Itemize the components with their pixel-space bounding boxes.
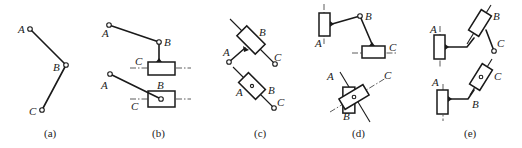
link-ab xyxy=(30,29,66,65)
link-a-b xyxy=(332,16,360,24)
label-a-upper: A xyxy=(101,27,109,39)
caption-a: (a) xyxy=(44,127,57,140)
label-b-lower: B xyxy=(268,84,275,96)
label-b-lower: B xyxy=(343,110,350,122)
slider-c xyxy=(362,46,385,58)
label-a-upper: A xyxy=(429,23,437,35)
weld-icon xyxy=(330,21,334,27)
label-c-upper: C xyxy=(274,51,282,63)
pin-icon xyxy=(352,95,356,99)
caption-c: (c) xyxy=(254,127,267,140)
label-b-upper: B xyxy=(365,10,372,22)
label-a-lower: A xyxy=(431,76,439,88)
label-a: A xyxy=(17,23,25,35)
caption-e: (e) xyxy=(464,127,477,140)
pin-icon xyxy=(250,84,253,87)
label-b: B xyxy=(53,61,60,73)
label-b-upper: B xyxy=(259,26,266,38)
joint-c-icon xyxy=(492,49,497,54)
label-b-upper: B xyxy=(164,36,171,48)
joint-b-icon xyxy=(159,97,164,102)
label-b-upper: B xyxy=(493,10,500,22)
label-c: C xyxy=(29,105,37,117)
label-c-lower: C xyxy=(131,100,139,112)
joint-c-icon xyxy=(40,108,45,113)
joint-a-icon xyxy=(28,27,33,32)
link-a-upper xyxy=(229,48,245,62)
weld-icon xyxy=(369,42,375,46)
panel-b: A B C A B C (b) xyxy=(100,23,191,140)
kinematic-pair-diagram: A B C (a) A B C A B C (b) xyxy=(0,0,522,148)
panel-c: A B C A B C (c) xyxy=(222,19,285,140)
panel-e: A B C A B C (e) xyxy=(429,5,505,140)
joint-b-icon xyxy=(64,63,69,68)
label-a-lower: A xyxy=(100,79,108,91)
link-ab-lower xyxy=(110,74,161,99)
slider-c-upper xyxy=(148,62,175,75)
label-a-upper: A xyxy=(314,37,322,49)
caption-d: (d) xyxy=(352,127,365,140)
label-a-lower: A xyxy=(326,70,334,82)
joint-a-icon xyxy=(227,60,232,65)
joint-a-icon xyxy=(108,72,113,77)
panel-a: A B C (a) xyxy=(17,23,68,140)
label-c-upper: C xyxy=(497,37,505,49)
label-a-lower: A xyxy=(235,86,243,98)
label-b-lower: B xyxy=(157,79,164,91)
label-c-lower: C xyxy=(384,69,392,81)
label-b-lower: B xyxy=(472,98,479,110)
weld-icon xyxy=(156,58,162,62)
joint-c-icon xyxy=(272,106,277,111)
slider-b-upper xyxy=(469,10,492,37)
link-ab-upper xyxy=(109,25,159,42)
label-c-upper: C xyxy=(135,55,143,67)
caption-b: (b) xyxy=(152,127,165,140)
label-a-upper: A xyxy=(222,46,230,58)
joint-b-icon xyxy=(157,40,162,45)
slider-a xyxy=(319,13,330,36)
pin-icon xyxy=(479,75,483,79)
link-c-upper xyxy=(486,30,494,51)
label-c-upper: C xyxy=(389,41,397,53)
joint-b-icon xyxy=(358,14,363,19)
slider-a-upper xyxy=(434,35,445,59)
panel-d: A B C A C B (d) xyxy=(314,4,397,140)
label-c-lower: C xyxy=(494,70,502,82)
slider-a-lower xyxy=(437,90,448,114)
label-c-lower: C xyxy=(277,96,285,108)
